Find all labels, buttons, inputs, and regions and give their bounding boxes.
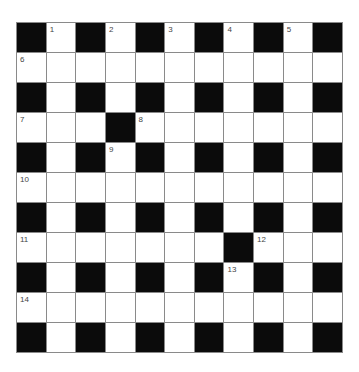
block-cell: [136, 143, 166, 173]
answer-cell[interactable]: 13: [224, 263, 254, 293]
answer-cell[interactable]: [47, 203, 77, 233]
answer-cell[interactable]: [195, 53, 225, 83]
answer-cell[interactable]: [195, 113, 225, 143]
block-cell: [136, 263, 166, 293]
answer-cell[interactable]: 7: [17, 113, 47, 143]
answer-cell[interactable]: [47, 293, 77, 323]
answer-cell[interactable]: 2: [106, 23, 136, 53]
answer-cell[interactable]: [136, 53, 166, 83]
answer-cell[interactable]: [313, 53, 343, 83]
answer-cell[interactable]: [284, 323, 314, 353]
answer-cell[interactable]: [284, 53, 314, 83]
answer-cell[interactable]: [76, 293, 106, 323]
block-cell: [224, 233, 254, 263]
answer-cell[interactable]: [165, 323, 195, 353]
answer-cell[interactable]: [195, 233, 225, 263]
answer-cell[interactable]: 10: [17, 173, 47, 203]
answer-cell[interactable]: [224, 293, 254, 323]
block-cell: [136, 23, 166, 53]
answer-cell[interactable]: [47, 83, 77, 113]
block-cell: [76, 203, 106, 233]
answer-cell[interactable]: [76, 173, 106, 203]
answer-cell[interactable]: [313, 113, 343, 143]
answer-cell[interactable]: [136, 173, 166, 203]
answer-cell[interactable]: [284, 173, 314, 203]
answer-cell[interactable]: [106, 83, 136, 113]
answer-cell[interactable]: [224, 173, 254, 203]
answer-cell[interactable]: 3: [165, 23, 195, 53]
answer-cell[interactable]: [106, 293, 136, 323]
block-cell: [254, 83, 284, 113]
answer-cell[interactable]: [47, 143, 77, 173]
answer-cell[interactable]: [224, 143, 254, 173]
block-cell: [313, 83, 343, 113]
block-cell: [313, 323, 343, 353]
answer-cell[interactable]: 12: [254, 233, 284, 263]
answer-cell[interactable]: [165, 173, 195, 203]
answer-cell[interactable]: [224, 83, 254, 113]
answer-cell[interactable]: [106, 323, 136, 353]
block-cell: [136, 203, 166, 233]
block-cell: [76, 83, 106, 113]
answer-cell[interactable]: 1: [47, 23, 77, 53]
answer-cell[interactable]: [284, 233, 314, 263]
answer-cell[interactable]: 8: [136, 113, 166, 143]
answer-cell[interactable]: [165, 113, 195, 143]
answer-cell[interactable]: [76, 53, 106, 83]
answer-cell[interactable]: [195, 293, 225, 323]
answer-cell[interactable]: [47, 113, 77, 143]
answer-cell[interactable]: 14: [17, 293, 47, 323]
answer-cell[interactable]: [106, 203, 136, 233]
answer-cell[interactable]: [224, 203, 254, 233]
answer-cell[interactable]: [165, 263, 195, 293]
answer-cell[interactable]: [165, 293, 195, 323]
answer-cell[interactable]: 4: [224, 23, 254, 53]
answer-cell[interactable]: [47, 323, 77, 353]
answer-cell[interactable]: [284, 83, 314, 113]
answer-cell[interactable]: [254, 293, 284, 323]
clue-number: 11: [20, 235, 28, 244]
clue-number: 5: [287, 25, 291, 34]
answer-cell[interactable]: [254, 113, 284, 143]
answer-cell[interactable]: [106, 173, 136, 203]
answer-cell[interactable]: [284, 203, 314, 233]
answer-cell[interactable]: [254, 173, 284, 203]
answer-cell[interactable]: [195, 173, 225, 203]
answer-cell[interactable]: 11: [17, 233, 47, 263]
answer-cell[interactable]: [224, 113, 254, 143]
answer-cell[interactable]: [284, 113, 314, 143]
answer-cell[interactable]: [136, 233, 166, 263]
answer-cell[interactable]: 6: [17, 53, 47, 83]
answer-cell[interactable]: [47, 173, 77, 203]
answer-cell[interactable]: 5: [284, 23, 314, 53]
answer-cell[interactable]: [165, 83, 195, 113]
answer-cell[interactable]: [47, 233, 77, 263]
answer-cell[interactable]: [165, 203, 195, 233]
answer-cell[interactable]: [224, 53, 254, 83]
answer-cell[interactable]: [165, 233, 195, 263]
answer-cell[interactable]: [165, 143, 195, 173]
answer-cell[interactable]: [136, 293, 166, 323]
crossword-grid: 1234567891011121314: [16, 22, 343, 353]
answer-cell[interactable]: [47, 53, 77, 83]
answer-cell[interactable]: [106, 263, 136, 293]
block-cell: [195, 23, 225, 53]
answer-cell[interactable]: [76, 113, 106, 143]
answer-cell[interactable]: [106, 53, 136, 83]
answer-cell[interactable]: [224, 323, 254, 353]
block-cell: [195, 83, 225, 113]
answer-cell[interactable]: 9: [106, 143, 136, 173]
answer-cell[interactable]: [106, 233, 136, 263]
answer-cell[interactable]: [313, 233, 343, 263]
answer-cell[interactable]: [47, 263, 77, 293]
answer-cell[interactable]: [254, 53, 284, 83]
answer-cell[interactable]: [76, 233, 106, 263]
answer-cell[interactable]: [313, 293, 343, 323]
block-cell: [136, 323, 166, 353]
answer-cell[interactable]: [313, 173, 343, 203]
answer-cell[interactable]: [165, 53, 195, 83]
answer-cell[interactable]: [284, 293, 314, 323]
answer-cell[interactable]: [284, 263, 314, 293]
block-cell: [254, 203, 284, 233]
answer-cell[interactable]: [284, 143, 314, 173]
